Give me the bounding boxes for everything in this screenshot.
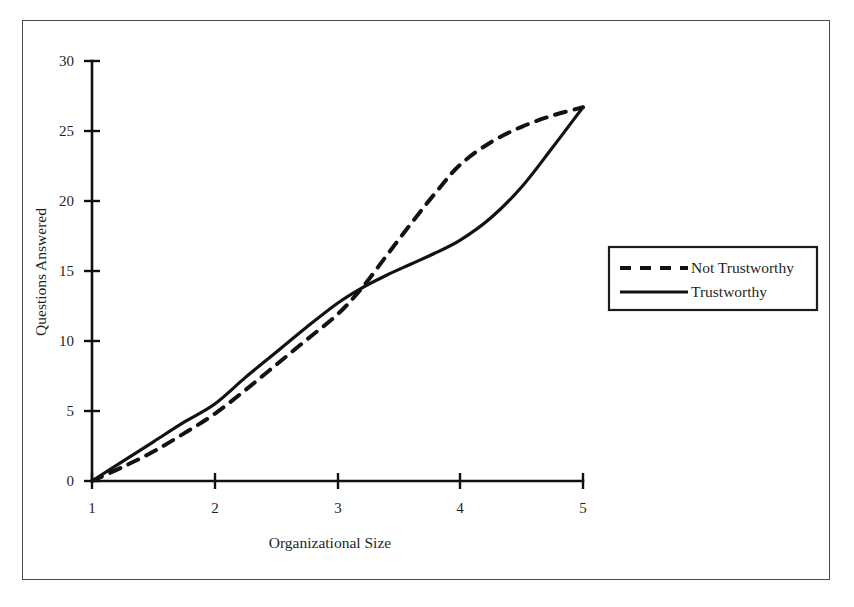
x-axis-title: Organizational Size xyxy=(269,534,392,551)
figure-root: 0 5 10 15 20 25 30 1 2 3 4 5 Organizatio… xyxy=(0,0,854,607)
x-tick-label-3: 3 xyxy=(334,500,342,516)
x-tick-label-5: 5 xyxy=(579,500,587,516)
series-line-trustworthy xyxy=(92,107,583,481)
line-chart: 0 5 10 15 20 25 30 1 2 3 4 5 Organizatio… xyxy=(0,0,854,607)
series-line-not-trustworthy xyxy=(92,107,583,481)
y-tick-label-30: 30 xyxy=(59,53,74,69)
legend-label-trustworthy: Trustworthy xyxy=(691,283,767,300)
x-tick-label-1: 1 xyxy=(88,500,96,516)
y-axis-tick-labels: 0 5 10 15 20 25 30 xyxy=(59,53,74,489)
y-tick-label-25: 25 xyxy=(59,123,74,139)
x-tick-label-2: 2 xyxy=(211,500,219,516)
y-tick-label-10: 10 xyxy=(59,333,74,349)
y-tick-label-20: 20 xyxy=(59,193,74,209)
y-axis-title: Questions Answered xyxy=(32,208,49,336)
chart-legend: Not Trustworthy Trustworthy xyxy=(609,247,817,310)
y-tick-label-5: 5 xyxy=(67,403,75,419)
legend-label-not-trustworthy: Not Trustworthy xyxy=(691,259,794,276)
x-axis-tick-labels: 1 2 3 4 5 xyxy=(88,500,587,516)
x-tick-label-4: 4 xyxy=(456,500,464,516)
y-tick-label-15: 15 xyxy=(59,263,74,279)
y-tick-label-0: 0 xyxy=(67,473,75,489)
legend-box xyxy=(609,247,817,310)
